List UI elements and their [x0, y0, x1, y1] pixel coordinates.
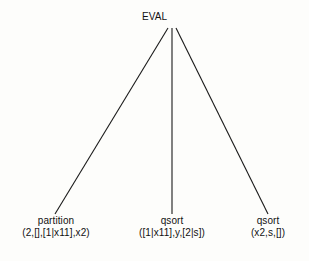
node-root: EVAL — [0, 11, 309, 23]
node-root-label: EVAL — [0, 11, 309, 23]
diagram-canvas: EVAL partition (2,[],[1|x11],x2) qsort (… — [0, 0, 309, 261]
node-leaf-qsort-right-name: qsort — [212, 215, 309, 227]
node-leaf-partition-args: (2,[],[1|x11],x2) — [0, 227, 112, 239]
node-leaf-partition-name: partition — [0, 215, 112, 227]
node-leaf-partition: partition (2,[],[1|x11],x2) — [0, 215, 112, 239]
edge-to-partition — [55, 28, 168, 214]
node-leaf-qsort-right: qsort (x2,s,[]) — [212, 215, 309, 239]
node-leaf-qsort-right-args: (x2,s,[]) — [212, 227, 309, 239]
edge-to-qsort-right — [176, 28, 268, 214]
